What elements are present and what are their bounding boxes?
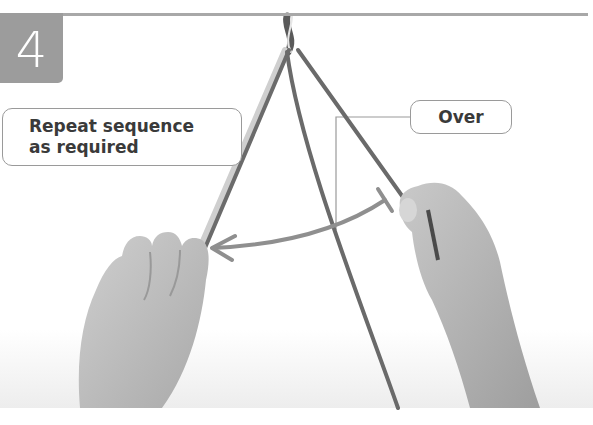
- callout-leader-line: [336, 117, 410, 230]
- curved-arrow-icon: [212, 189, 392, 260]
- callout-repeat-line2: as required: [29, 137, 241, 158]
- callout-repeat-line1: Repeat sequence: [29, 116, 241, 137]
- callout-over-label: Over: [438, 107, 483, 127]
- top-divider-rule: [63, 13, 588, 16]
- callout-over: Over: [410, 100, 512, 134]
- step-number-badge: 4: [0, 13, 63, 83]
- callout-repeat-sequence: Repeat sequence as required: [2, 108, 242, 166]
- photo-scene: [0, 0, 593, 425]
- instruction-illustration: 4 Repeat sequence as required Over: [0, 0, 593, 425]
- step-number: 4: [16, 25, 48, 75]
